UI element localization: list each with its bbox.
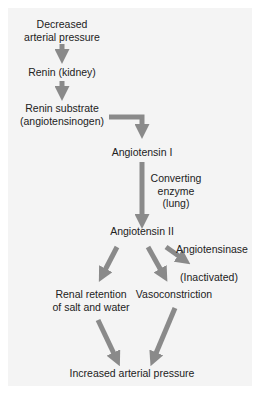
node-vasoconstriction: Vasoconstriction bbox=[134, 288, 214, 301]
arrow-icon bbox=[148, 247, 163, 274]
node-renin-substrate: Renin substrate (angiotensinogen) bbox=[17, 102, 107, 127]
node-line: of salt and water bbox=[50, 301, 132, 314]
node-angiotensin-1: Angiotensin I bbox=[102, 146, 182, 159]
arrow-icon bbox=[98, 320, 116, 358]
arrow-icon bbox=[154, 308, 175, 358]
node-line: Renal retention bbox=[50, 288, 132, 301]
node-renal-retention: Renal retention of salt and water bbox=[50, 288, 132, 313]
label-line: Converting bbox=[148, 172, 204, 185]
edge-label-angiotensinase: Angiotensinase bbox=[176, 243, 248, 256]
node-increased-pressure: Increased arterial pressure bbox=[60, 367, 204, 380]
node-line: (angiotensinogen) bbox=[17, 115, 107, 128]
arrows-layer bbox=[0, 0, 261, 394]
label-line: (lung) bbox=[148, 197, 204, 210]
node-line: Decreased bbox=[22, 18, 102, 31]
node-inactivated: (Inactivated) bbox=[176, 271, 242, 284]
elbow-arrow-icon bbox=[109, 117, 142, 130]
node-line: arterial pressure bbox=[22, 31, 102, 44]
arrow-icon bbox=[103, 247, 117, 274]
node-line: Renin substrate bbox=[17, 102, 107, 115]
node-angiotensin-2: Angiotensin II bbox=[102, 225, 182, 238]
label-line: enzyme bbox=[148, 185, 204, 198]
node-renin: Renin (kidney) bbox=[22, 66, 102, 79]
edge-label-converting-enzyme: Converting enzyme (lung) bbox=[148, 172, 204, 210]
node-decreased-pressure: Decreased arterial pressure bbox=[22, 18, 102, 43]
